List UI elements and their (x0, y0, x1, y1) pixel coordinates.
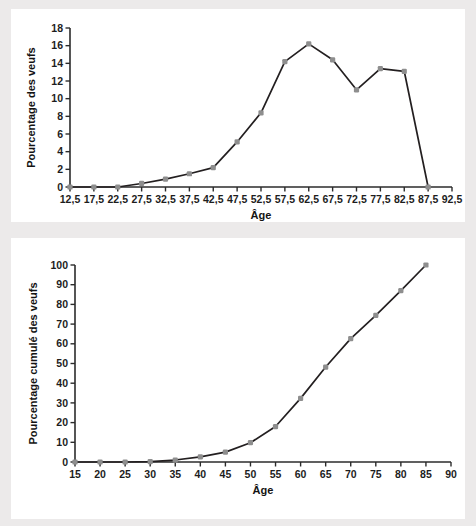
data-point-marker (248, 440, 253, 445)
distribution-chart: 02468101214161812,517,522,527,532,537,54… (11, 9, 465, 222)
x-tick-label: 60 (295, 468, 307, 480)
x-tick-label: 22,5 (108, 193, 129, 205)
data-point-marker (378, 66, 383, 71)
data-point-marker (306, 41, 311, 46)
chart-panel-distribution: 02468101214161812,517,522,527,532,537,54… (11, 9, 465, 222)
data-point-marker (91, 184, 96, 189)
x-tick-label: 45 (220, 468, 232, 480)
x-tick-label: 27,5 (131, 193, 152, 205)
y-tick-label: 80 (56, 298, 68, 310)
x-tick-label: 55 (270, 468, 282, 480)
data-point-marker (211, 165, 216, 170)
y-tick-label: 0 (57, 181, 63, 193)
y-tick-label: 8 (57, 110, 63, 122)
data-point-marker (426, 184, 431, 189)
data-point-marker (148, 459, 153, 464)
cumulative-chart: 0102030405060708090100152025303540455055… (11, 238, 465, 519)
data-point-marker (323, 364, 328, 369)
x-tick-label: 30 (144, 468, 156, 480)
data-point-marker (298, 396, 303, 401)
data-point-marker (72, 459, 77, 464)
y-tick-label: 100 (50, 259, 68, 271)
data-point-marker (187, 171, 192, 176)
y-tick-label: 70 (56, 318, 68, 330)
x-tick-label: 70 (345, 468, 357, 480)
data-point-marker (402, 69, 407, 74)
x-tick-label: 75 (370, 468, 382, 480)
x-tick-label: 65 (320, 468, 332, 480)
x-tick-label: 87,5 (418, 193, 439, 205)
data-point-marker (354, 87, 359, 92)
y-axis-title: Pourcentage des veufs (25, 47, 37, 167)
y-tick-label: 50 (56, 357, 68, 369)
x-tick-label: 47,5 (227, 193, 248, 205)
x-tick-label: 15 (69, 468, 81, 480)
x-tick-label: 25 (119, 468, 131, 480)
data-point-marker (258, 110, 263, 115)
data-point-marker (139, 181, 144, 186)
y-tick-label: 10 (56, 436, 68, 448)
y-tick-label: 30 (56, 397, 68, 409)
y-tick-label: 0 (62, 456, 68, 468)
x-tick-label: 72,5 (346, 193, 367, 205)
y-tick-label: 18 (51, 22, 63, 34)
x-axis-title: Âge (251, 209, 272, 221)
y-tick-label: 2 (57, 163, 63, 175)
data-point-marker (115, 184, 120, 189)
data-point-marker (373, 313, 378, 318)
data-point-marker (423, 262, 428, 267)
x-tick-label: 67,5 (322, 193, 343, 205)
data-point-marker (223, 450, 228, 455)
x-tick-label: 37,5 (179, 193, 200, 205)
series-line (70, 44, 428, 187)
x-tick-label: 92,5 (442, 193, 463, 205)
data-point-marker (173, 457, 178, 462)
series-line (75, 265, 426, 462)
x-tick-label: 40 (194, 468, 206, 480)
data-point-marker (123, 459, 128, 464)
x-tick-label: 50 (245, 468, 257, 480)
x-tick-label: 32,5 (155, 193, 176, 205)
data-point-marker (398, 288, 403, 293)
chart-panel-cumulative: 0102030405060708090100152025303540455055… (11, 238, 465, 519)
x-tick-label: 42,5 (203, 193, 224, 205)
y-tick-label: 40 (56, 377, 68, 389)
x-tick-label: 80 (395, 468, 407, 480)
data-point-marker (330, 57, 335, 62)
data-point-marker (282, 59, 287, 64)
y-tick-label: 16 (51, 39, 63, 51)
y-tick-label: 14 (51, 57, 63, 69)
x-tick-label: 52,5 (251, 193, 272, 205)
data-point-marker (97, 459, 102, 464)
x-tick-label: 35 (169, 468, 181, 480)
x-tick-label: 90 (445, 468, 457, 480)
y-tick-label: 6 (57, 128, 63, 140)
data-point-marker (198, 454, 203, 459)
data-point-marker (67, 184, 72, 189)
y-tick-label: 10 (51, 92, 63, 104)
y-tick-label: 12 (51, 75, 63, 87)
data-point-marker (163, 176, 168, 181)
y-tick-label: 4 (57, 145, 63, 157)
x-axis-title: Âge (253, 484, 274, 496)
x-tick-label: 57,5 (275, 193, 296, 205)
y-tick-label: 90 (56, 278, 68, 290)
data-point-marker (235, 139, 240, 144)
data-point-marker (348, 336, 353, 341)
figure-container: 02468101214161812,517,522,527,532,537,54… (0, 0, 476, 526)
y-tick-label: 60 (56, 337, 68, 349)
x-tick-label: 62,5 (299, 193, 320, 205)
x-tick-label: 20 (94, 468, 106, 480)
y-axis-title: Pourcentage cumulé des veufs (27, 283, 39, 445)
x-tick-label: 12,5 (60, 193, 81, 205)
x-tick-label: 82,5 (394, 193, 415, 205)
x-tick-label: 17,5 (84, 193, 105, 205)
y-tick-label: 20 (56, 416, 68, 428)
x-tick-label: 77,5 (370, 193, 391, 205)
x-tick-label: 85 (420, 468, 432, 480)
data-point-marker (273, 424, 278, 429)
